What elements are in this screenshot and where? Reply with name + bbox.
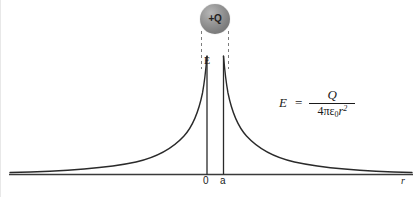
x-axis-label: r bbox=[401, 176, 405, 186]
tick-label-a: a bbox=[220, 176, 226, 186]
equation-lhs: E bbox=[279, 95, 287, 111]
denominator-exponent: 2 bbox=[343, 104, 347, 113]
equation-fraction: Q 4πε0r2 bbox=[309, 88, 355, 119]
equation-numerator: Q bbox=[323, 88, 342, 103]
tick-label-zero: 0 bbox=[203, 176, 209, 186]
equation-equals-sign: = bbox=[295, 95, 302, 111]
denominator-constant: 4πε bbox=[317, 104, 334, 118]
equation-denominator: 4πε0r2 bbox=[315, 104, 349, 119]
field-equation: E = Q 4πε0r2 bbox=[279, 88, 355, 119]
field-strength-label: E bbox=[204, 56, 210, 66]
electric-field-figure: +Q E 0 a r E = Q 4πε0r2 bbox=[0, 0, 420, 197]
charge-label: +Q bbox=[208, 14, 221, 24]
charged-sphere: +Q bbox=[200, 4, 230, 34]
field-curve-left bbox=[10, 56, 207, 173]
